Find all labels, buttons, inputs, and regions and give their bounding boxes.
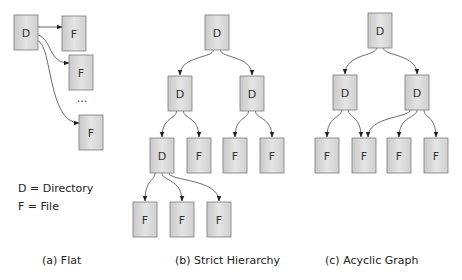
file-node-flat-f1: F bbox=[62, 16, 86, 51]
edge-strict-dl-to-f3a bbox=[184, 111, 200, 137]
edge-strict-d3-to-f4b bbox=[162, 173, 182, 201]
file-node-strict-f3c: F bbox=[260, 138, 284, 173]
file-node-strict-f3b: F bbox=[223, 138, 247, 173]
edge-strict-dr-to-f3c bbox=[256, 111, 273, 137]
edge-acyclic-dr-to-fc bbox=[399, 110, 417, 137]
edge-acyclic-dl-to-fa bbox=[327, 110, 342, 137]
node-label: F bbox=[216, 214, 222, 227]
node-label: D bbox=[158, 150, 166, 163]
file-node-strict-f4c: F bbox=[207, 202, 231, 237]
legend-file: F = File bbox=[18, 200, 59, 213]
node-label: D bbox=[213, 27, 221, 40]
ellipsis: ... bbox=[77, 92, 88, 105]
caption-flat: (a) Flat bbox=[42, 254, 82, 267]
file-organization-diagram: DFFFDDDDFFFFFFDDDFFFF ... D = Directory … bbox=[0, 0, 462, 280]
caption-strict-hierarchy: (b) Strict Hierarchy bbox=[175, 254, 280, 267]
edges-layer bbox=[38, 27, 436, 201]
edge-strict-dl-to-d3 bbox=[162, 111, 177, 137]
edge-strict-d3-to-f4a bbox=[145, 173, 155, 201]
file-node-strict-f3a: F bbox=[187, 138, 211, 173]
file-node-acyclic-fc: F bbox=[387, 138, 411, 173]
node-label: F bbox=[396, 150, 402, 163]
edge-strict-root-to-dr bbox=[221, 50, 253, 75]
node-label: F bbox=[88, 127, 94, 140]
edge-strict-d3-to-f4c bbox=[169, 173, 219, 201]
edge-acyclic-root-to-dl bbox=[345, 48, 377, 74]
node-label: F bbox=[196, 150, 202, 163]
directory-node-strict-root: D bbox=[205, 15, 229, 50]
node-label: D bbox=[176, 88, 184, 101]
caption-acyclic-graph: (c) Acyclic Graph bbox=[325, 254, 418, 267]
file-node-acyclic-fd: F bbox=[424, 138, 448, 173]
legend-directory: D = Directory bbox=[18, 182, 94, 195]
node-label: D bbox=[341, 87, 349, 100]
node-label: D bbox=[248, 88, 256, 101]
directory-node-strict-dr: D bbox=[240, 76, 264, 111]
node-label: F bbox=[324, 150, 330, 163]
nodes-layer: DFFFDDDDFFFFFFDDDFFFF bbox=[14, 13, 448, 237]
node-label: F bbox=[78, 67, 84, 80]
edge-acyclic-dr-to-fd bbox=[424, 110, 436, 137]
node-label: F bbox=[433, 150, 439, 163]
file-node-flat-f2: F bbox=[69, 55, 93, 90]
file-node-acyclic-fa: F bbox=[315, 138, 339, 173]
directory-node-flat-d0: D bbox=[14, 15, 38, 50]
node-label: F bbox=[232, 150, 238, 163]
directory-node-acyclic-dr: D bbox=[405, 75, 429, 110]
edge-acyclic-dr-to-fb bbox=[368, 110, 410, 137]
directory-node-acyclic-root: D bbox=[368, 13, 392, 48]
node-label: F bbox=[179, 214, 185, 227]
file-node-acyclic-fb: F bbox=[352, 138, 376, 173]
edge-strict-dr-to-f3b bbox=[235, 111, 249, 137]
file-node-flat-f3: F bbox=[79, 115, 103, 150]
file-node-strict-f4a: F bbox=[133, 202, 157, 237]
node-label: F bbox=[269, 150, 275, 163]
node-label: D bbox=[22, 27, 30, 40]
directory-node-acyclic-dl: D bbox=[333, 75, 357, 110]
directory-node-strict-dl: D bbox=[168, 76, 192, 111]
edge-acyclic-dl-to-fb bbox=[349, 110, 362, 137]
directory-node-strict-d3: D bbox=[150, 138, 174, 173]
edge-acyclic-root-to-dr bbox=[384, 48, 418, 74]
node-label: D bbox=[413, 87, 421, 100]
node-label: F bbox=[361, 150, 367, 163]
file-node-strict-f4b: F bbox=[170, 202, 194, 237]
node-label: D bbox=[376, 25, 384, 38]
node-label: F bbox=[71, 28, 77, 41]
edge-strict-root-to-dl bbox=[180, 50, 214, 75]
node-label: F bbox=[142, 214, 148, 227]
